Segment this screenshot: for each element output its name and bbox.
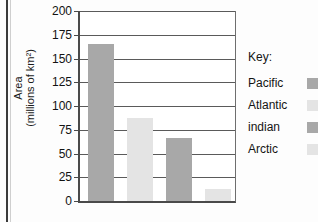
legend-item-label: Atlantic [248, 98, 287, 112]
y-axis-tick [74, 154, 80, 155]
plot-area: 2001751501251007550250 [78, 11, 236, 203]
legend-item-indian: indian [248, 121, 318, 133]
legend-item-pacific: Pacific [248, 77, 318, 89]
legend-swatch [307, 144, 318, 155]
legend-entries: PacificAtlanticindianArctic [248, 77, 318, 155]
y-axis-tick-label: 125 [52, 75, 72, 89]
bar-arctic [205, 189, 231, 201]
gridline [80, 11, 235, 12]
y-axis-tick [74, 177, 80, 178]
y-axis-title: Area (millions of km²) [12, 28, 36, 148]
y-axis-tick-label: 0 [65, 194, 72, 208]
bar-indian [166, 138, 192, 201]
legend-item-atlantic: Atlantic [248, 99, 318, 111]
legend-swatch [307, 122, 318, 133]
y-axis-tick [74, 35, 80, 36]
y-axis-tick [74, 59, 80, 60]
bar-chart-figure: Area (millions of km²) 20017515012510075… [0, 0, 318, 222]
y-axis-tick [74, 106, 80, 107]
y-axis-tick [74, 11, 80, 12]
bar-pacific [88, 44, 114, 201]
page-background: Area (millions of km²) 20017515012510075… [0, 0, 318, 222]
y-axis-tick [74, 130, 80, 131]
legend-swatch [307, 78, 318, 89]
y-axis-tick-label: 100 [52, 99, 72, 113]
gridline [80, 35, 235, 36]
y-axis-title-line1: Area [12, 28, 24, 148]
legend-swatch [307, 100, 318, 111]
legend-item-arctic: Arctic [248, 143, 318, 155]
y-axis-tick-label: 175 [52, 28, 72, 42]
y-axis-title-line2: (millions of km²) [24, 28, 36, 148]
bar-atlantic [127, 118, 153, 201]
y-axis-tick-label: 50 [59, 147, 72, 161]
y-axis-tick-label: 200 [52, 4, 72, 18]
y-axis-tick-label: 150 [52, 52, 72, 66]
legend-item-label: indian [248, 120, 280, 134]
y-axis-tick [74, 201, 80, 202]
y-axis-tick [74, 82, 80, 83]
chart-legend: Key: PacificAtlanticindianArctic [248, 50, 318, 165]
legend-title: Key: [248, 50, 318, 64]
legend-item-label: Arctic [248, 142, 278, 156]
y-axis-tick-label: 25 [59, 170, 72, 184]
y-axis-tick-label: 75 [59, 123, 72, 137]
legend-item-label: Pacific [248, 76, 283, 90]
